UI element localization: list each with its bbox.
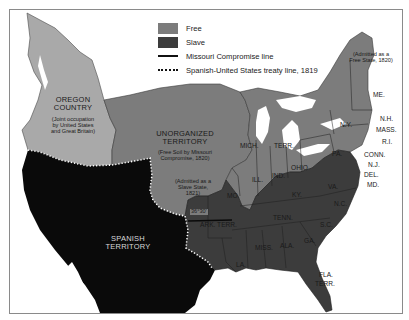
- legend-label: Spanish-United States treaty line, 1819: [186, 66, 318, 75]
- state-label-conn: CONN.: [364, 152, 385, 159]
- free-swatch-icon: [158, 23, 178, 34]
- label-latitude: 36°30': [190, 209, 208, 215]
- label-maine-note: (Admitted as a Free State, 1820): [343, 52, 399, 64]
- region-oregon-country: [22, 13, 116, 168]
- spanish-title-2: TERRITORY: [100, 243, 156, 251]
- state-label-pa: PA.: [332, 151, 342, 158]
- slave-swatch-icon: [158, 37, 178, 48]
- label-spanish-territory: SPANISH TERRITORY: [100, 235, 156, 251]
- legend-item-treaty-line: Spanish-United States treaty line, 1819: [158, 63, 318, 77]
- legend-item-missouri-line: Missouri Compromise line: [158, 49, 318, 63]
- state-label-ala: ALA.: [280, 243, 294, 250]
- legend-label: Missouri Compromise line: [186, 52, 273, 61]
- state-label-sc: S.C.: [320, 222, 333, 229]
- oregon-title-2: COUNTRY: [45, 104, 101, 112]
- legend-item-free: Free: [158, 21, 318, 35]
- state-label-terr: TERR.: [274, 143, 294, 150]
- legend-label: Free: [186, 24, 202, 33]
- dotted-line-icon: [158, 69, 178, 71]
- unorganized-title-2: TERRITORY: [140, 138, 230, 146]
- state-label-ind: IND.: [272, 173, 285, 180]
- state-label-tenn: TENN.: [273, 215, 293, 222]
- state-label-del: DEL.: [364, 172, 379, 179]
- state-label-me: ME.: [373, 92, 385, 99]
- unorganized-note-2: Compromise, 1820): [142, 156, 228, 162]
- state-label-ny: N.Y.: [340, 122, 352, 129]
- maine-note-2: Free State, 1820): [343, 58, 399, 64]
- solid-line-icon: [158, 55, 178, 57]
- state-label-nc: N.C.: [334, 201, 347, 208]
- missouri-note-3: 1821): [168, 191, 218, 197]
- label-oregon-country: OREGON COUNTRY: [45, 96, 101, 112]
- state-label-mich: MICH.: [240, 143, 259, 150]
- state-label-ga: GA.: [304, 238, 315, 245]
- state-label-nj: N.J.: [368, 162, 380, 169]
- state-label-md: MD.: [367, 182, 379, 189]
- state-label-miss: MISS.: [255, 245, 273, 252]
- map-legend: Free Slave Missouri Compromise line Span…: [158, 21, 318, 77]
- state-label-mass: MASS.: [376, 127, 397, 134]
- legend-item-slave: Slave: [158, 35, 318, 49]
- state-label-ark: ARK. TERR.: [200, 222, 237, 229]
- state-label-mo: MO.: [227, 193, 239, 200]
- state-label-va: VA.: [328, 184, 338, 191]
- legend-label: Slave: [186, 38, 205, 47]
- state-label-ill: ILL.: [252, 177, 263, 184]
- state-label-fla: FLA.: [319, 272, 333, 279]
- state-label-ohio: OHIO: [291, 165, 308, 172]
- state-label-fla-terr: TERR.: [315, 281, 335, 288]
- label-oregon-note: (Joint occupation by United States and G…: [40, 117, 106, 135]
- label-unorganized-note: (Free Soil by Missouri Compromise, 1820): [142, 150, 228, 162]
- state-label-ri: R.I.: [382, 139, 392, 146]
- state-label-ky: KY.: [292, 192, 302, 199]
- oregon-note-3: and Great Britain): [40, 129, 106, 135]
- label-unorganized-territory: UNORGANIZED TERRITORY: [140, 130, 230, 146]
- state-label-nh: N.H.: [380, 116, 393, 123]
- label-missouri-note: (Admitted as a Slave State, 1821): [168, 179, 218, 197]
- state-label-la: LA.: [236, 262, 246, 269]
